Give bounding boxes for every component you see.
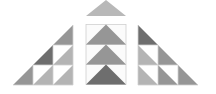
center-top-triangle (86, 0, 126, 16)
right-staircase (138, 25, 198, 85)
left-r2c0-triangle (13, 65, 33, 85)
left-r0c2-triangle (53, 25, 73, 45)
left-r1c1-triangle (33, 45, 53, 65)
right-r0c0-triangle (138, 25, 158, 45)
center-column (86, 0, 126, 85)
left-staircase (13, 25, 73, 85)
triangle-diagram (0, 0, 216, 94)
right-r1c1-triangle (158, 45, 178, 65)
right-r2c2-triangle (178, 65, 198, 85)
